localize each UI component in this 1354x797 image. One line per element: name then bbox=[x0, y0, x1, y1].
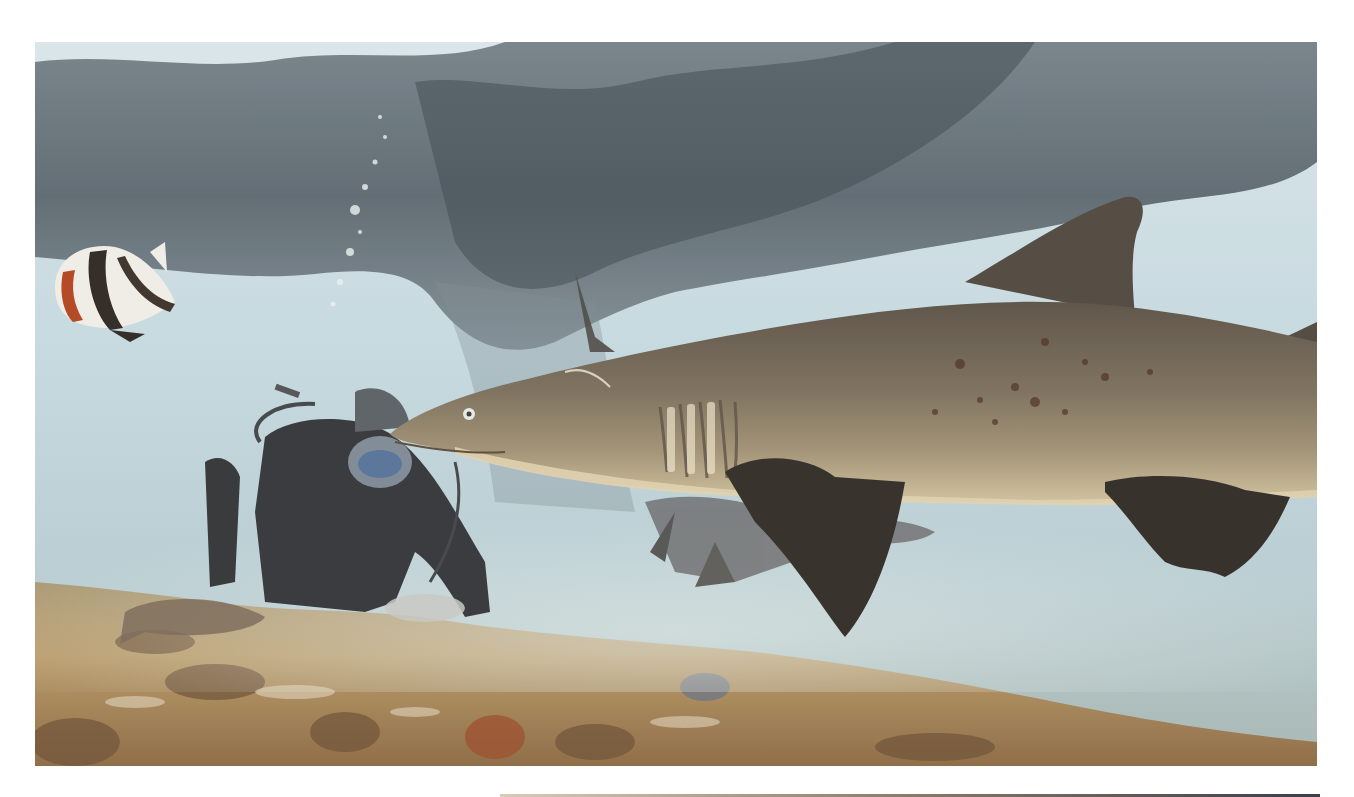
underwater-photo bbox=[35, 42, 1317, 766]
photo-scene bbox=[35, 42, 1317, 766]
